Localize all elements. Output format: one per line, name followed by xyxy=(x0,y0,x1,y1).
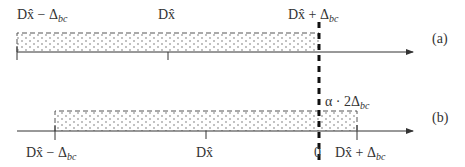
panel-a xyxy=(17,33,413,60)
label-a-center: Dx̂ xyxy=(158,8,175,22)
diagram-canvas xyxy=(0,0,465,167)
panel-label-b: (b) xyxy=(432,110,448,126)
panel-label-a: (a) xyxy=(432,31,448,47)
panel-b xyxy=(17,111,413,140)
annotation-alpha: α · 2Δbc xyxy=(325,95,369,111)
label-b-left: Dx̂ − Δbc xyxy=(26,146,76,162)
label-a-left: Dx̂ − Δbc xyxy=(17,8,67,24)
label-a-right: Dx̂ + Δbc xyxy=(288,8,338,24)
interval-box-b xyxy=(55,111,357,131)
label-b-center: Dx̂ xyxy=(196,146,213,160)
label-b-right: Dx̂ + Δbc xyxy=(335,146,385,162)
interval-box-a xyxy=(17,33,319,52)
label-b-zero: 0 xyxy=(314,146,321,160)
